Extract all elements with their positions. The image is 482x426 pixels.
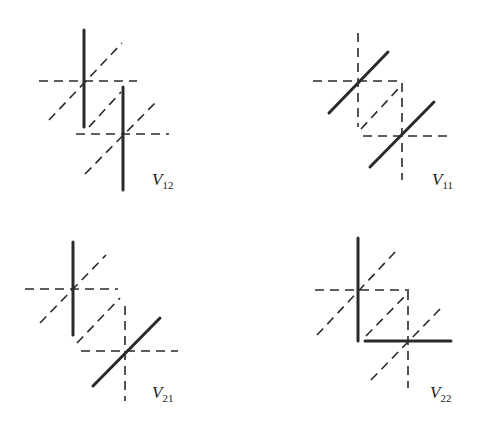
dashed-line xyxy=(77,298,120,343)
dashed-line xyxy=(366,295,406,336)
panel-v21 xyxy=(25,242,178,401)
panel-v11 xyxy=(313,33,453,180)
solid-line xyxy=(93,318,160,386)
dashed-line xyxy=(371,308,441,380)
panel-v12 xyxy=(39,30,169,190)
diagram-canvas xyxy=(0,0,482,426)
dashed-line xyxy=(361,88,399,129)
panel-label-v22: V22 xyxy=(430,383,451,404)
solid-line xyxy=(370,102,434,167)
panel-label-v21: V21 xyxy=(152,383,173,404)
panel-v22 xyxy=(315,238,451,388)
solid-line xyxy=(329,52,388,113)
panel-label-v12: V12 xyxy=(152,170,173,191)
panel-label-v11: V11 xyxy=(432,170,453,191)
dashed-line xyxy=(89,92,121,127)
